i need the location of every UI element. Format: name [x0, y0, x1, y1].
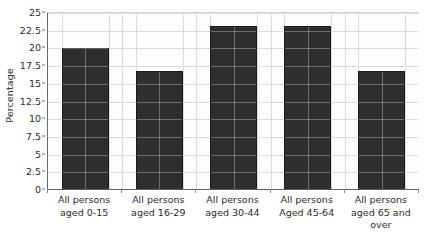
gridline-horizontal-overlay	[63, 119, 108, 120]
y-axis-tick-label: 10	[29, 113, 41, 124]
x-axis-tick-label: All personsaged 30-44	[195, 194, 269, 219]
y-axis-tick-label: 7.5	[26, 130, 41, 141]
y-axis-tick-mark	[42, 135, 45, 136]
x-axis-tick-mark	[270, 189, 271, 193]
bar	[136, 71, 183, 190]
x-axis-tick-mark	[121, 189, 122, 193]
x-axis-tick-mark	[418, 189, 419, 193]
gridline-vertical	[405, 13, 406, 190]
gridline-vertical-overlay	[382, 72, 383, 189]
y-axis-tick-label: 20	[29, 42, 41, 53]
gridline-horizontal-overlay	[285, 155, 330, 156]
gridline-horizontal-overlay	[285, 102, 330, 103]
gridline-horizontal-overlay	[63, 137, 108, 138]
y-axis-tick-label: 12.5	[20, 95, 41, 106]
gridline-horizontal-overlay	[137, 84, 182, 85]
gridline-horizontal-overlay	[211, 137, 256, 138]
y-axis-tick-label: 15	[29, 77, 41, 88]
x-axis-tick-label: All personsaged 0-15	[47, 194, 121, 219]
x-axis-tick-mark	[344, 189, 345, 193]
gridline-horizontal-overlay	[359, 84, 404, 85]
bar	[358, 71, 405, 190]
y-axis-title-text: Percentage	[4, 68, 15, 122]
x-axis-tick-label-line: Aged 45-64	[270, 207, 344, 220]
gridline-horizontal-overlay	[359, 155, 404, 156]
gridline-horizontal-overlay	[211, 66, 256, 67]
gridline-vertical	[257, 13, 258, 190]
x-axis-tick-label: All personsaged 16-29	[121, 194, 195, 219]
bar-chart: Percentage 02.557.51012.51517.52022.525 …	[0, 0, 430, 242]
gridline-horizontal-overlay	[285, 119, 330, 120]
gridline-horizontal	[48, 13, 419, 14]
gridline-horizontal-overlay	[359, 119, 404, 120]
gridline-horizontal-overlay	[137, 137, 182, 138]
x-axis-tick-label-line: aged 65 and	[344, 207, 418, 220]
y-axis-tick-label: 0	[35, 184, 41, 195]
x-axis-tick-label-line: aged 0-15	[47, 207, 121, 220]
y-axis-tick-mark	[42, 47, 45, 48]
gridline-vertical	[122, 13, 123, 190]
y-axis-tick-label: 25	[29, 7, 41, 18]
y-axis-tick-mark	[42, 12, 45, 13]
gridline-horizontal-overlay	[63, 102, 108, 103]
gridline-horizontal-overlay	[63, 48, 108, 49]
bar	[210, 26, 257, 190]
x-axis-tick-label-line: All persons	[121, 194, 195, 207]
bar	[284, 26, 331, 190]
y-axis-tick-mark	[42, 171, 45, 172]
gridline-horizontal-overlay	[359, 172, 404, 173]
x-axis-tick-label-line: over	[344, 219, 418, 232]
gridline-horizontal-overlay	[211, 48, 256, 49]
gridline-vertical	[183, 13, 184, 190]
y-axis-tick-mark	[42, 82, 45, 83]
gridline-horizontal-overlay	[211, 84, 256, 85]
y-axis-title: Percentage	[0, 0, 18, 190]
x-axis-tick-label: All personsaged 65 andover	[344, 194, 418, 232]
gridline-horizontal-overlay	[211, 31, 256, 32]
gridline-vertical-overlay	[234, 27, 235, 189]
bar	[62, 48, 109, 190]
gridline-vertical	[345, 13, 346, 190]
gridline-horizontal-overlay	[359, 137, 404, 138]
y-axis-tick-mark	[42, 65, 45, 66]
gridline-vertical-overlay	[85, 49, 86, 189]
x-axis-tick-label: All personsAged 45-64	[270, 194, 344, 219]
gridline-horizontal-overlay	[211, 102, 256, 103]
gridline-horizontal-overlay	[63, 155, 108, 156]
x-axis-tick-labels: All personsaged 0-15All personsaged 16-2…	[47, 194, 418, 242]
gridline-horizontal-overlay	[285, 137, 330, 138]
y-axis-tick-mark	[42, 153, 45, 154]
gridline-horizontal-overlay	[211, 172, 256, 173]
gridline-horizontal-overlay	[137, 119, 182, 120]
gridline-horizontal-overlay	[211, 155, 256, 156]
gridline-vertical	[271, 13, 272, 190]
y-axis-tick-mark	[42, 29, 45, 30]
gridline-horizontal-overlay	[285, 31, 330, 32]
x-axis-line	[47, 189, 419, 190]
y-axis-tick-label: 2.5	[26, 166, 41, 177]
gridline-horizontal-overlay	[285, 48, 330, 49]
y-axis-tick-label: 17.5	[20, 60, 41, 71]
x-axis-tick-label-line: aged 16-29	[121, 207, 195, 220]
gridline-horizontal-overlay	[63, 66, 108, 67]
gridline-horizontal-overlay	[285, 172, 330, 173]
plot-inner	[48, 13, 419, 190]
gridline-vertical-overlay	[308, 27, 309, 189]
plot-area	[47, 12, 419, 190]
y-axis-tick-mark	[42, 100, 45, 101]
y-axis-tick-mark	[42, 189, 45, 190]
x-axis-tick-label-line: All persons	[195, 194, 269, 207]
x-axis-tick-label-line: All persons	[344, 194, 418, 207]
y-axis-tick-label: 5	[35, 148, 41, 159]
x-axis-tick-mark	[47, 189, 48, 193]
gridline-vertical	[196, 13, 197, 190]
y-axis-tick-mark	[42, 118, 45, 119]
gridline-horizontal-overlay	[63, 84, 108, 85]
gridline-vertical-overlay	[159, 72, 160, 189]
x-axis-tick-label-line: All persons	[47, 194, 121, 207]
gridline-horizontal-overlay	[137, 172, 182, 173]
gridline-horizontal-overlay	[359, 102, 404, 103]
gridline-horizontal-overlay	[285, 84, 330, 85]
y-axis-tick-label: 22.5	[20, 24, 41, 35]
gridline-horizontal-overlay	[285, 66, 330, 67]
